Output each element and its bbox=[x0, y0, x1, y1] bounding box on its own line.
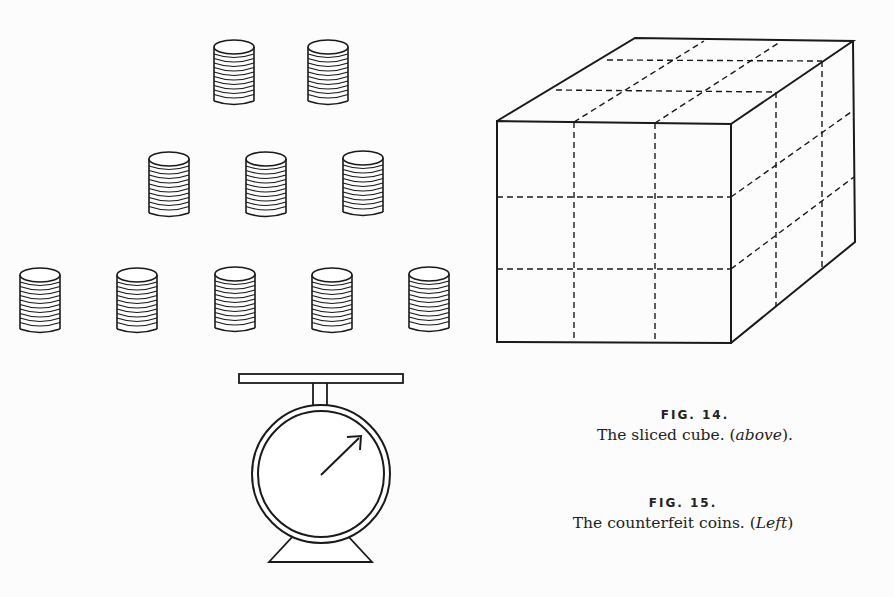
coin-stacks-group bbox=[20, 40, 449, 333]
fig15-caption-main: The counterfeit coins. ( bbox=[573, 514, 756, 532]
fig15-caption-text: The counterfeit coins. (Left) bbox=[528, 514, 838, 532]
coin-stack-icon bbox=[312, 268, 352, 333]
fig14-caption-text: The sliced cube. (above). bbox=[560, 426, 830, 444]
coin-stack-icon bbox=[20, 268, 60, 333]
coin-stack-icon bbox=[409, 267, 449, 332]
fig15-caption-end: ) bbox=[787, 514, 793, 532]
coin-stack-icon bbox=[246, 152, 286, 217]
coin-stack-icon bbox=[149, 152, 189, 217]
coin-stack-icon bbox=[117, 268, 157, 333]
coin-stack-icon bbox=[215, 267, 255, 332]
weighing-scale-icon bbox=[239, 374, 403, 562]
fig15-caption: FIG. 15. The counterfeit coins. (Left) bbox=[528, 496, 838, 532]
fig14-caption-main: The sliced cube. ( bbox=[597, 426, 736, 444]
fig14-caption: FIG. 14. The sliced cube. (above). bbox=[560, 408, 830, 444]
coin-stack-icon bbox=[343, 151, 383, 216]
coin-stack-icon bbox=[308, 40, 348, 105]
fig14-label: FIG. 14. bbox=[560, 408, 830, 422]
fig15-label: FIG. 15. bbox=[528, 496, 838, 510]
fig14-caption-end: ). bbox=[782, 426, 793, 444]
fig14-caption-italic: above bbox=[736, 426, 782, 444]
fig15-caption-italic: Left bbox=[756, 514, 787, 532]
sliced-cube-icon bbox=[497, 38, 855, 343]
coin-stack-icon bbox=[214, 40, 254, 105]
